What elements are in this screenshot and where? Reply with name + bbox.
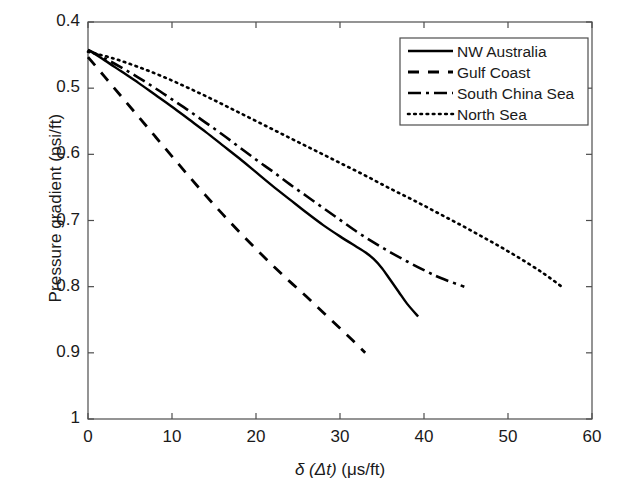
x-tick-label-40: 40 (404, 427, 444, 447)
y-tick-label-0.5: 0.5 (34, 77, 80, 97)
legend-label: Gulf Coast (457, 64, 531, 81)
y-tick-label-0.4: 0.4 (34, 11, 80, 31)
y-tick-label-0.7: 0.7 (34, 210, 80, 230)
legend-label: North Sea (457, 106, 527, 123)
x-axis-label: δ (Δt) (μs/ft) (88, 460, 592, 480)
x-axis-label-arg: (Δt) (309, 460, 336, 479)
figure: NW AustraliaGulf CoastSouth China SeaNor… (0, 0, 619, 496)
x-axis-label-units: (μs/ft) (341, 460, 385, 479)
x-tick-label-0: 0 (68, 427, 108, 447)
legend-label: NW Australia (457, 43, 547, 60)
x-tick-label-10: 10 (152, 427, 192, 447)
x-tick-label-50: 50 (488, 427, 528, 447)
legend-label: South China Sea (457, 85, 575, 102)
x-tick-label-30: 30 (320, 427, 360, 447)
y-tick-label-1: 1 (34, 408, 80, 428)
y-tick-label-0.8: 0.8 (34, 276, 80, 296)
series-line-nw-australia (88, 50, 418, 317)
series-line-gulf-coast (88, 57, 365, 353)
y-tick-label-0.9: 0.9 (34, 342, 80, 362)
x-tick-label-60: 60 (572, 427, 612, 447)
x-axis-label-delta: δ (295, 460, 304, 479)
plot-canvas: NW AustraliaGulf CoastSouth China SeaNor… (0, 0, 619, 496)
y-tick-label-0.6: 0.6 (34, 143, 80, 163)
x-tick-label-20: 20 (236, 427, 276, 447)
